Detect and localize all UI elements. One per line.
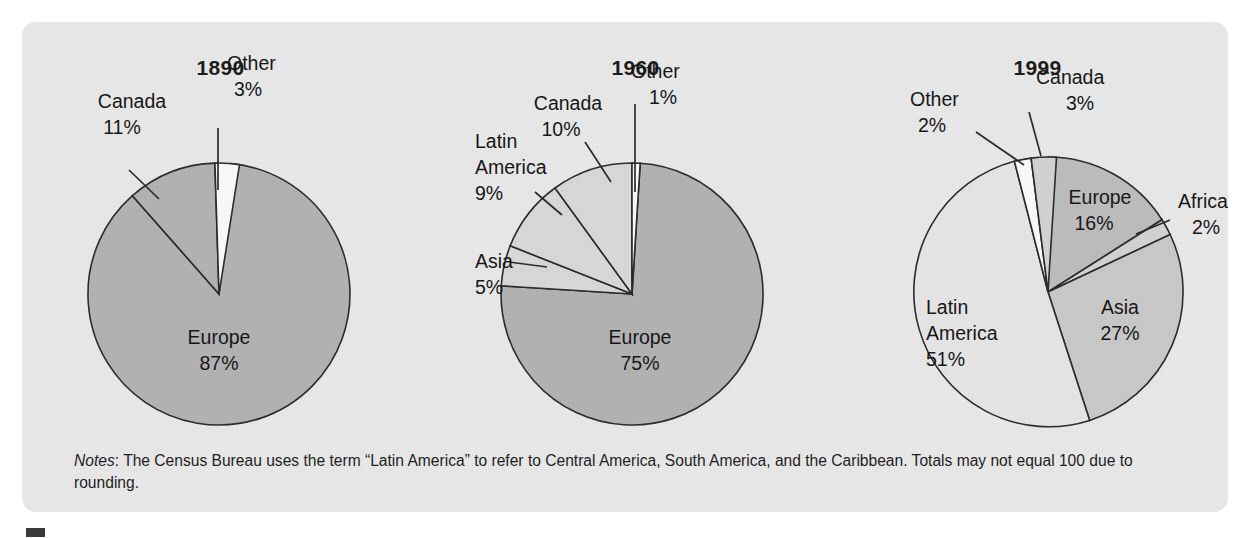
label-latin-name1-1960: Latin	[475, 130, 517, 152]
label-canada-pct-1960: 10%	[541, 118, 580, 140]
label-other-pct-1890: 3%	[234, 78, 262, 100]
label-other-name-1999: Other	[910, 88, 959, 110]
leader-other-1999	[976, 132, 1024, 165]
label-canada-pct-1890: 11%	[103, 116, 141, 138]
label-asia-pct-1960: 5%	[475, 276, 503, 298]
label-europe-pct-1890: 87%	[199, 352, 238, 374]
label-europe-pct-1999: 16%	[1074, 212, 1113, 234]
pie-slices-1960	[501, 163, 763, 425]
label-other-pct-1999: 2%	[918, 114, 946, 136]
label-latin-pct-1960: 9%	[475, 182, 503, 204]
label-other-pct-1960: 1%	[649, 86, 677, 108]
pie-svg-1999: Canada 3% Other 2% Europe 16% Africa 2% …	[848, 22, 1249, 512]
label-latin-name1-1999: Latin	[926, 296, 968, 318]
label-asia-name-1999: Asia	[1101, 296, 1139, 318]
label-other-name-1960: Other	[631, 60, 680, 82]
label-latin-name2-1960: America	[475, 156, 547, 178]
label-canada-name-1890: Canada	[98, 90, 166, 112]
leader-canada-1999	[1029, 112, 1041, 156]
label-other-name-1890: Other	[227, 52, 276, 74]
label-europe-name-1960: Europe	[609, 326, 672, 348]
label-canada-name-1999: Canada	[1036, 66, 1104, 88]
label-canada-name-1960: Canada	[534, 92, 602, 114]
label-europe-name-1890: Europe	[188, 326, 251, 348]
pie-svg-1890: Other 3% Canada 11% Europe 87%	[22, 22, 435, 512]
figure-panel: 1890 Other 3% Canada 11% Europe 87%	[22, 22, 1228, 512]
label-canada-pct-1999: 3%	[1066, 92, 1094, 114]
figure-number-marker	[26, 528, 45, 537]
pie-chart-1960: 1960 Other 1% Canada	[435, 22, 848, 512]
pie-svg-1960: Other 1% Canada 10% Latin America 9% Asi…	[435, 22, 848, 512]
label-africa-name-1999: Africa	[1178, 190, 1228, 212]
label-asia-pct-1999: 27%	[1100, 322, 1139, 344]
label-europe-name-1999: Europe	[1069, 186, 1132, 208]
label-latin-pct-1999: 51%	[926, 348, 965, 370]
label-latin-name2-1999: America	[926, 322, 998, 344]
pie-slices-1999	[914, 157, 1183, 427]
label-europe-pct-1960: 75%	[620, 352, 659, 374]
label-asia-name-1960: Asia	[475, 250, 513, 272]
pie-chart-1999: 1999 Canada 3%	[848, 22, 1249, 512]
notes-body-text: : The Census Bureau uses the term “Latin…	[74, 452, 1133, 491]
notes-lead-label: Notes	[74, 452, 115, 469]
pie-slices-1890	[88, 163, 350, 425]
label-africa-pct-1999: 2%	[1192, 216, 1220, 238]
figure-notes: Notes: The Census Bureau uses the term “…	[74, 450, 1194, 494]
pie-chart-1890: 1890 Other 3% Canada 11% Europe 87%	[22, 22, 435, 512]
